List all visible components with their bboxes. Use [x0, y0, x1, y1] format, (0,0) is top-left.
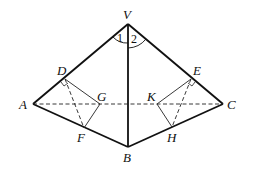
edge-gf [84, 104, 100, 128]
label-f: F [76, 130, 86, 145]
label-c: C [227, 97, 236, 112]
label-d: D [56, 63, 67, 78]
label-v: V [123, 7, 133, 22]
angle-label-1: 1 [117, 31, 123, 45]
edge-kh [157, 104, 172, 127]
label-k: K [146, 89, 157, 104]
label-h: H [166, 130, 177, 145]
angle-label-2: 2 [131, 32, 137, 46]
label-b: B [123, 150, 131, 165]
right-angle-mark-d [61, 82, 68, 86]
solid-edges [33, 24, 223, 147]
right-angle-mark-e [188, 82, 195, 86]
edge-vc [128, 24, 223, 104]
label-e: E [192, 63, 201, 78]
edge-va [33, 24, 128, 104]
label-g: G [97, 89, 107, 104]
label-a: A [18, 97, 27, 112]
geometry-diagram: 1 2 V A B C D E F G H K [0, 0, 253, 171]
